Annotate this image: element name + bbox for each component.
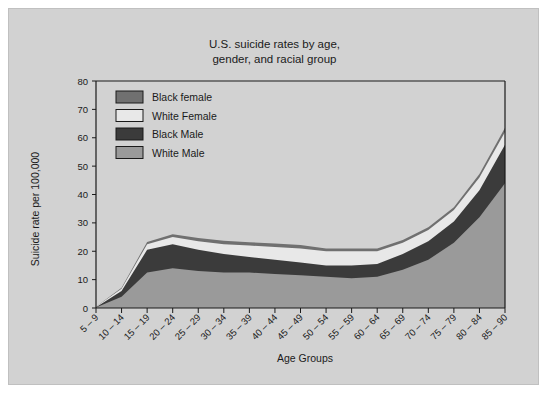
y-tick-label: 70 — [77, 104, 88, 115]
y-tick-label: 60 — [77, 132, 88, 143]
y-tick-label: 20 — [77, 246, 88, 257]
x-axis-title: Age Groups — [277, 352, 333, 364]
x-tick-label: 60 – 64 — [351, 312, 381, 342]
legend-label: White Male — [152, 147, 205, 159]
legend-swatch — [116, 110, 143, 122]
x-tick-label: 5 – 9 — [78, 312, 101, 335]
x-tick-label: 25 – 29 — [172, 312, 202, 342]
y-tick-label: 10 — [77, 274, 88, 285]
legend-label: Black Male — [152, 128, 204, 140]
legend-swatch — [116, 91, 143, 103]
y-tick-label: 0 — [83, 303, 88, 314]
y-tick-label: 30 — [77, 217, 88, 228]
legend-swatch — [116, 147, 143, 159]
x-tick-label: 75 – 79 — [428, 312, 458, 342]
x-tick-label: 20 – 24 — [147, 312, 177, 342]
x-tick-label: 70 – 74 — [403, 312, 433, 342]
stacked-area-chart: 01020304050607080 5 – 910 – 1415 – 1920 … — [9, 9, 540, 386]
x-tick-label: 55 – 59 — [326, 312, 356, 342]
y-axis-ticks: 01020304050607080 — [77, 76, 96, 314]
legend-swatch — [116, 128, 143, 140]
x-tick-label: 85 – 90 — [479, 312, 509, 342]
y-tick-label: 40 — [77, 189, 88, 200]
x-tick-label: 15 – 19 — [121, 312, 151, 342]
y-axis-title: Suicide rate per 100,000 — [29, 152, 41, 267]
chart-panel: U.S. suicide rates by age, gender, and r… — [8, 8, 539, 385]
y-tick-label: 50 — [77, 161, 88, 172]
legend-label: Black female — [152, 91, 212, 103]
x-tick-label: 80 – 84 — [454, 312, 484, 342]
plot-area-container: 01020304050607080 5 – 910 – 1415 – 1920 … — [9, 9, 540, 386]
x-tick-label: 50 – 54 — [300, 312, 330, 342]
chart-legend: Black femaleWhite FemaleBlack MaleWhite … — [116, 91, 217, 159]
x-tick-label: 35 – 39 — [224, 312, 254, 342]
x-tick-label: 40 – 44 — [249, 312, 279, 342]
y-tick-label: 80 — [77, 76, 88, 87]
x-axis-ticks: 5 – 910 – 1415 – 1920 – 2425 – 2930 – 34… — [78, 308, 510, 342]
x-tick-label: 30 – 34 — [198, 312, 228, 342]
legend-label: White Female — [152, 110, 217, 122]
x-tick-label: 45 – 49 — [275, 312, 305, 342]
x-tick-label: 10 – 14 — [96, 312, 126, 342]
x-tick-label: 65 – 69 — [377, 312, 407, 342]
